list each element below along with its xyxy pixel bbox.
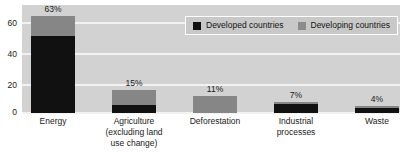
- bar-value-agriculture: 15%: [125, 79, 142, 88]
- bar-energy[interactable]: 63%: [31, 16, 75, 113]
- legend-item-developed[interactable]: Developed countries: [193, 21, 284, 30]
- bar-segment-developed-waste: [355, 108, 399, 113]
- bar-agriculture[interactable]: 15%: [112, 90, 156, 113]
- bar-segment-developed-industrial-processes: [274, 104, 318, 113]
- bar-value-waste: 4%: [371, 95, 383, 104]
- bar-value-energy: 63%: [44, 5, 61, 14]
- x-label-waste: Waste: [347, 116, 405, 127]
- y-tick-40: 40: [8, 50, 17, 58]
- black-square-icon: [193, 22, 201, 30]
- bar-segment-developed-agriculture: [112, 105, 156, 113]
- stacked-bar-chart: 60 40 20 0 63% 15% 11% 7% 4%: [0, 0, 405, 153]
- y-tick-20: 20: [8, 81, 17, 89]
- x-axis-labels: Energy Agriculture (excluding land use c…: [22, 116, 400, 153]
- bar-value-deforestation: 11%: [207, 85, 223, 94]
- bar-segment-developed-energy: [31, 36, 75, 113]
- bar-segment-developing-deforestation: [193, 96, 237, 113]
- chart-legend: Developed countries Developing countries: [185, 16, 398, 35]
- gray-square-icon: [298, 22, 306, 30]
- bar-value-industrial-processes: 7%: [290, 91, 302, 100]
- bar-deforestation[interactable]: 11%: [193, 96, 237, 113]
- legend-label-developing: Developing countries: [311, 21, 390, 30]
- legend-item-developing[interactable]: Developing countries: [298, 21, 390, 30]
- legend-label-developed: Developed countries: [206, 21, 284, 30]
- x-label-agriculture: Agriculture (excluding land use change): [99, 116, 169, 149]
- y-tick-0: 0: [12, 108, 17, 116]
- bar-industrial-processes[interactable]: 7%: [274, 102, 318, 113]
- y-axis: 60 40 20 0: [0, 5, 20, 115]
- y-tick-60: 60: [8, 19, 17, 27]
- bar-waste[interactable]: 4%: [355, 106, 399, 113]
- x-label-energy: Energy: [23, 116, 83, 127]
- bar-segment-developing-agriculture: [112, 90, 156, 105]
- bar-segment-developing-energy: [31, 16, 75, 36]
- x-label-industrial-processes: Industrial processes: [264, 116, 328, 138]
- x-label-deforestation: Deforestation: [180, 116, 250, 127]
